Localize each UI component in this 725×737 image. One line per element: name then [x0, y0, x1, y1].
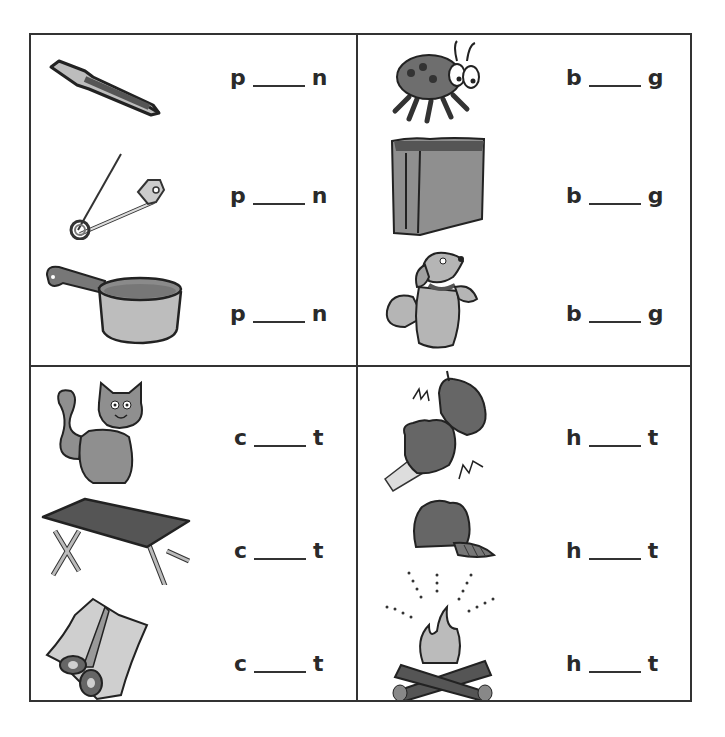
- word-blank-row: c t: [234, 540, 324, 562]
- last-letter: n: [312, 185, 328, 207]
- first-letter: b: [566, 67, 582, 89]
- blank-line[interactable]: [253, 84, 305, 87]
- first-letter: h: [566, 653, 582, 675]
- word-blank-row: b g: [566, 185, 664, 207]
- last-letter: t: [648, 427, 659, 449]
- last-letter: t: [648, 540, 659, 562]
- blank-line[interactable]: [589, 84, 641, 87]
- ladybug-icon: [387, 39, 487, 124]
- pan-icon: [43, 263, 188, 348]
- last-letter: g: [648, 185, 664, 207]
- first-letter: c: [234, 653, 247, 675]
- vertical-divider: [356, 35, 358, 700]
- safety-pin-icon: [66, 150, 166, 240]
- word-blank-row: h t: [566, 653, 658, 675]
- cot-icon: [39, 495, 199, 585]
- fist-hit-icon: [383, 369, 503, 494]
- blank-line[interactable]: [589, 444, 641, 447]
- campfire-hot-icon: [385, 565, 505, 700]
- blank-line[interactable]: [589, 670, 641, 673]
- blank-line[interactable]: [254, 557, 306, 560]
- word-blank-row: b g: [566, 67, 664, 89]
- first-letter: p: [230, 185, 246, 207]
- last-letter: t: [648, 653, 659, 675]
- blank-line[interactable]: [589, 320, 641, 323]
- first-letter: h: [566, 427, 582, 449]
- paper-bag-icon: [390, 137, 486, 239]
- last-letter: g: [648, 303, 664, 325]
- first-letter: p: [230, 67, 246, 89]
- last-letter: t: [313, 653, 324, 675]
- first-letter: b: [566, 303, 582, 325]
- blank-line[interactable]: [253, 320, 305, 323]
- word-blank-row: h t: [566, 540, 658, 562]
- word-blank-row: b g: [566, 303, 664, 325]
- dog-begging-icon: [383, 247, 493, 352]
- blank-line[interactable]: [254, 670, 306, 673]
- last-letter: n: [312, 67, 328, 89]
- last-letter: n: [312, 303, 328, 325]
- word-blank-row: c t: [234, 427, 324, 449]
- word-blank-row: p n: [230, 67, 327, 89]
- last-letter: t: [313, 427, 324, 449]
- pen-icon: [45, 55, 165, 125]
- horizontal-divider: [31, 365, 690, 367]
- worksheet-grid: p n p n p n: [29, 33, 692, 702]
- blank-line[interactable]: [589, 202, 641, 205]
- word-blank-row: c t: [234, 653, 324, 675]
- word-blank-row: p n: [230, 185, 327, 207]
- first-letter: p: [230, 303, 246, 325]
- hat-icon: [408, 497, 498, 561]
- blank-line[interactable]: [253, 202, 305, 205]
- last-letter: g: [648, 67, 664, 89]
- word-blank-row: p n: [230, 303, 327, 325]
- last-letter: t: [313, 540, 324, 562]
- blank-line[interactable]: [589, 557, 641, 560]
- word-blank-row: h t: [566, 427, 658, 449]
- first-letter: c: [234, 540, 247, 562]
- first-letter: h: [566, 540, 582, 562]
- scissors-cut-icon: [43, 595, 158, 705]
- first-letter: c: [234, 427, 247, 449]
- first-letter: b: [566, 185, 582, 207]
- blank-line[interactable]: [254, 444, 306, 447]
- cat-icon: [49, 379, 149, 487]
